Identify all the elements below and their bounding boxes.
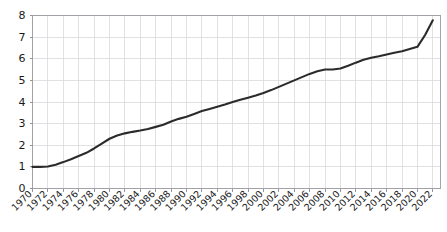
- chart-figure: 012345678 197019721974197619781980198219…: [0, 0, 447, 232]
- x-axis-tick-labels: 1970197219741976197819801982198419861988…: [9, 188, 434, 213]
- y-tick-label: 5: [19, 74, 26, 87]
- y-tick-label: 1: [19, 160, 26, 173]
- y-tick-label: 4: [19, 96, 26, 109]
- y-tick-label: 7: [19, 31, 26, 44]
- y-axis-tick-labels: 012345678: [19, 9, 26, 195]
- y-tick-label: 8: [19, 9, 26, 22]
- line-chart: 012345678 197019721974197619781980198219…: [0, 0, 447, 232]
- y-tick-label: 6: [19, 52, 26, 65]
- y-tick-label: 3: [19, 117, 26, 130]
- y-tick-label: 2: [19, 139, 26, 152]
